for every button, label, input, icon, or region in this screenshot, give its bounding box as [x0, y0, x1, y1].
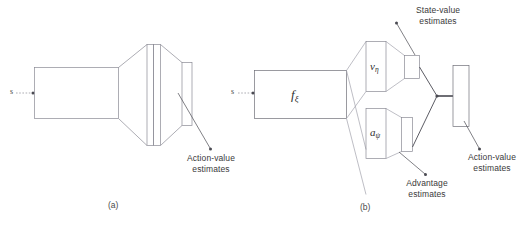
panel-a-input-label: s: [10, 87, 13, 96]
panel-a-input-arrow: [16, 92, 35, 95]
panel-b-shapes: [238, 22, 481, 195]
panel-a-action-value-line2: estimates: [173, 164, 249, 175]
panel-b-trunk-symbol-subscript: ξ: [295, 94, 299, 104]
panel-b-advantage-line2: estimates: [391, 189, 463, 200]
panel-b-value-symbol: vη: [370, 60, 379, 74]
panel-b-action-value-annotation: Action-value estimates: [458, 152, 526, 174]
panel-b-advantage-symbol: aψ: [370, 126, 380, 140]
panel-b-action-value-line2: estimates: [458, 163, 526, 174]
panel-b-value-taper: [386, 42, 405, 92]
dueling-network-figure: s Action-value estimates (a) s fξ vη aψ …: [0, 0, 526, 229]
panel-b-state-value-line2: estimates: [399, 16, 477, 27]
panel-a-expand-trapezoid: [119, 45, 148, 146]
panel-a-fc-layer: [147, 45, 154, 146]
panel-b-output-layer: [453, 66, 469, 127]
panel-b-advantage-node: [402, 118, 413, 152]
panel-b-state-value-line1: State-value: [399, 5, 477, 16]
panel-b-advantage-line1: Advantage: [391, 178, 463, 189]
panel-a-fc-layer-face: [154, 45, 161, 146]
panel-b-input-arrow: [238, 92, 255, 95]
panel-b-advantage-taper: [386, 109, 402, 159]
panel-b-aggregation-node: [435, 94, 438, 97]
panel-a-action-value-line1: Action-value: [173, 153, 249, 164]
panel-a-shapes: [16, 45, 212, 151]
panel-b-value-symbol-subscript: η: [375, 65, 379, 74]
panel-b-caption: (b): [360, 202, 370, 212]
panel-b-trunk-symbol: fξ: [291, 87, 298, 104]
panel-b-trunk-block: [255, 71, 347, 119]
panel-b-advantage-annotation: Advantage estimates: [391, 178, 463, 200]
panel-b-split-lines: [347, 42, 367, 195]
panel-a-caption: (a): [108, 200, 118, 210]
panel-a-action-value-leader: [178, 93, 212, 151]
panel-a-output-layer: [182, 63, 192, 126]
panel-a-trunk-block: [35, 68, 119, 119]
panel-a-action-value-annotation: Action-value estimates: [173, 153, 249, 175]
panel-b-aggregation-lines: [413, 67, 438, 147]
panel-b-advantage-leader: [399, 152, 427, 176]
panel-b-advantage-symbol-subscript: ψ: [376, 131, 381, 140]
panel-b-action-value-leader: [464, 121, 481, 151]
panel-b-state-value-node: [405, 56, 420, 79]
panel-b-state-value-annotation: State-value estimates: [399, 5, 477, 27]
panel-b-input-label: s: [231, 87, 234, 96]
panel-b-action-value-line1: Action-value: [458, 152, 526, 163]
